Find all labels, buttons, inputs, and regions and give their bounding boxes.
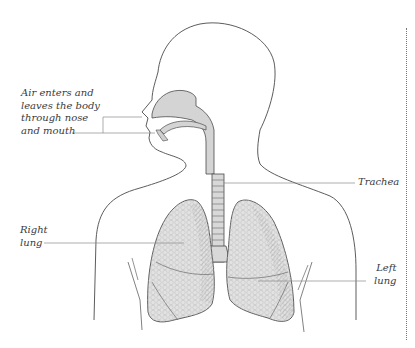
label-left-lung: Left lung — [374, 262, 396, 287]
dotted-border — [406, 28, 407, 340]
label-nose-mouth: Air enters and leaves the body through n… — [21, 87, 100, 137]
respiratory-diagram: Air enters and leaves the body through n… — [0, 0, 415, 348]
label-right-lung: Right lung — [20, 224, 48, 249]
label-trachea: Trachea — [358, 176, 399, 189]
right-lung — [148, 200, 215, 322]
anatomy-illustration — [0, 0, 415, 348]
left-lung — [227, 200, 294, 321]
